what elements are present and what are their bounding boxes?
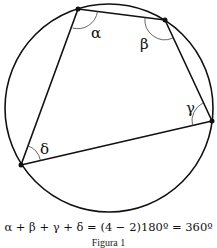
- quadrilateral: [21, 9, 212, 165]
- label-alpha: α: [91, 24, 101, 42]
- figure-caption: Figura 1: [0, 237, 217, 248]
- vertex-b: [163, 18, 168, 23]
- circumscribed-circle: [5, 4, 213, 212]
- vertex-d: [19, 163, 24, 168]
- label-gamma: γ: [186, 99, 195, 117]
- label-delta: δ: [40, 140, 49, 158]
- label-beta: β: [140, 35, 149, 53]
- angle-sum-formula: α + β + γ + δ = (4 − 2)180º = 360º: [0, 220, 217, 234]
- vertex-a: [76, 7, 81, 12]
- angle-arc-delta: [27, 146, 41, 161]
- vertex-c: [210, 119, 215, 124]
